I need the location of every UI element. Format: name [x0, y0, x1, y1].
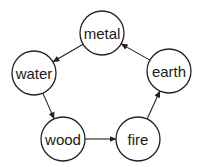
arrow-fire-to-earth [147, 91, 160, 119]
node-metal: metal [80, 11, 124, 55]
node-label-wood: wood [44, 131, 81, 148]
node-label-metal: metal [84, 25, 121, 42]
node-earth: earth [147, 49, 191, 93]
arrow-earth-to-metal [121, 44, 150, 60]
five-elements-diagram: metal earth fire wood water [0, 0, 198, 167]
node-wood: wood [41, 117, 85, 161]
node-water: water [12, 51, 56, 95]
node-label-water: water [15, 65, 53, 82]
arrow-metal-to-water [53, 44, 83, 62]
node-fire: fire [116, 117, 160, 161]
arrow-water-to-wood [43, 93, 54, 119]
node-label-fire: fire [128, 131, 149, 148]
node-label-earth: earth [152, 63, 186, 80]
